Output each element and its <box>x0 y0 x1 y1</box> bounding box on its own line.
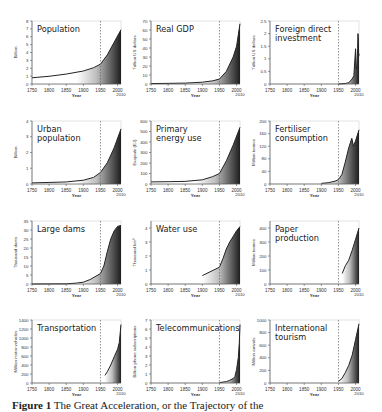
x-tick-label-2010: 2010 <box>354 391 364 396</box>
caption-text: The Great Acceleration, or the Trajector… <box>54 399 264 411</box>
chart-international-tourism: 1750180018501900195020002010Year02004006… <box>0 0 382 412</box>
x-tick-label: 1850 <box>299 387 310 392</box>
caption-label: Figure 1 <box>12 399 51 411</box>
y-tick-label: 400 <box>259 355 267 360</box>
y-tick-label: 0 <box>264 381 267 386</box>
x-tick-label: 1800 <box>282 387 293 392</box>
x-tick-label: 1950 <box>333 387 344 392</box>
x-tick-label: 1900 <box>316 387 327 392</box>
figure-caption: Figure 1 The Great Acceleration, or the … <box>12 399 263 411</box>
y-tick-label: 600 <box>259 343 267 348</box>
y-tick-label: 1000 <box>257 318 267 323</box>
x-axis-label: Year <box>310 392 320 397</box>
area-fill <box>338 324 359 383</box>
chart-grid: 1750180018501900195020002010Year01234567… <box>0 0 382 400</box>
x-tick-label: 1750 <box>265 387 276 392</box>
y-axis-label: Million arrivals <box>251 337 256 366</box>
y-tick-label: 200 <box>259 368 267 373</box>
y-tick-label: 800 <box>259 330 267 335</box>
chart-title: tourism <box>275 332 306 342</box>
